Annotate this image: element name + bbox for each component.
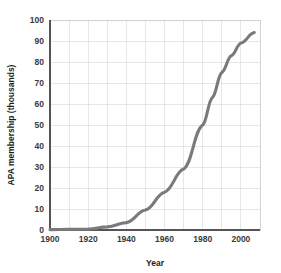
- y-axis-tick-label: 70: [35, 78, 45, 88]
- line-chart: 1009080706050403020100 19001920194019601…: [0, 0, 281, 273]
- y-axis-tick-label: 80: [35, 57, 45, 67]
- y-axis-tick-labels: 1009080706050403020100: [30, 15, 44, 235]
- y-axis-tick-label: 10: [35, 204, 45, 214]
- y-axis-tick-label: 20: [35, 183, 45, 193]
- y-axis-tick-label: 50: [35, 120, 45, 130]
- chart-container: 1009080706050403020100 19001920194019601…: [0, 0, 281, 273]
- y-axis-tick-label: 40: [35, 141, 45, 151]
- y-axis-tick-label: 90: [35, 36, 45, 46]
- y-axis-tick-label: 30: [35, 162, 45, 172]
- x-axis-tick-label: 2000: [231, 234, 250, 244]
- x-axis-tick-label: 1900: [41, 234, 60, 244]
- x-axis-title: Year: [146, 258, 165, 268]
- y-axis-tick-label: 100: [30, 15, 44, 25]
- x-axis-tick-label: 1980: [193, 234, 212, 244]
- x-axis-tick-labels: 190019201940196019802000: [41, 234, 251, 244]
- y-axis-tick-label: 60: [35, 99, 45, 109]
- x-axis-tick-label: 1960: [155, 234, 174, 244]
- x-axis-tick-label: 1940: [117, 234, 136, 244]
- y-axis-title: APA membership (thousands): [6, 64, 16, 185]
- x-axis-tick-label: 1920: [79, 234, 98, 244]
